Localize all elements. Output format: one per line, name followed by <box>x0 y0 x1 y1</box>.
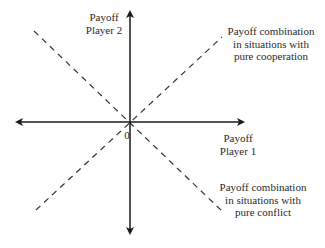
conflict-label-line2: in situations with <box>216 194 310 207</box>
conflict-label: Payoff combination in situations with pu… <box>216 181 310 219</box>
payoff-diagram: Payoff Player 2 Payoff Player 1 0 Payoff… <box>0 0 325 248</box>
origin-label: 0 <box>122 129 132 142</box>
x-axis-label-line1: Payoff <box>216 132 260 145</box>
cooperation-label-line3: pure cooperation <box>224 50 318 63</box>
cooperation-label: Payoff combination in situations with pu… <box>224 25 318 63</box>
y-axis-label: Payoff Player 2 <box>84 11 124 36</box>
y-axis-label-line2: Player 2 <box>84 24 124 37</box>
cooperation-label-line2: in situations with <box>224 38 318 51</box>
y-axis-label-line1: Payoff <box>84 11 124 24</box>
conflict-label-line3: pure conflict <box>216 206 310 219</box>
x-axis-label: Payoff Player 1 <box>216 132 260 157</box>
x-axis-label-line2: Player 1 <box>216 145 260 158</box>
cooperation-label-line1: Payoff combination <box>224 25 318 38</box>
conflict-label-line1: Payoff combination <box>216 181 310 194</box>
